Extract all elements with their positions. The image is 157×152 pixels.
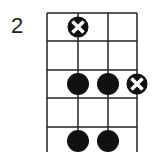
- x-circle-marker: [68, 17, 89, 38]
- finger-dot: [67, 130, 89, 152]
- x-circle-marker: [127, 74, 148, 95]
- finger-dot: [97, 130, 119, 152]
- finger-dot: [67, 73, 89, 95]
- finger-dot: [97, 73, 119, 95]
- fretboard-grid: [0, 0, 157, 152]
